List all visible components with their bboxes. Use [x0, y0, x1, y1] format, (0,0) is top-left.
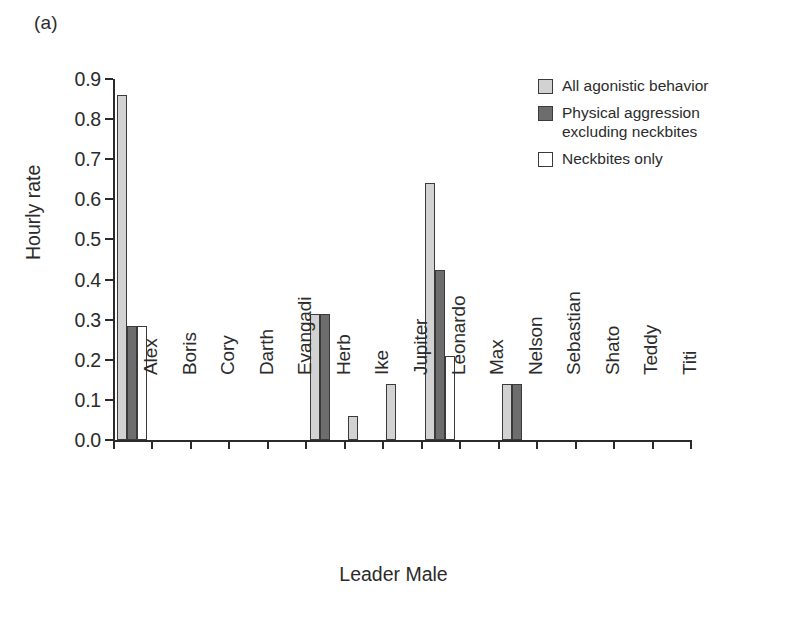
figure-panel-a: (a) Hourly rate 0.00.10.20.30.40.50.60.7…: [0, 0, 787, 623]
x-axis-tick: [344, 440, 346, 449]
y-axis-tick-label: 0.2: [74, 348, 101, 371]
bar: [435, 270, 445, 440]
bar-group: [113, 79, 151, 440]
bar-group: [190, 79, 228, 440]
legend-item: Neckbites only: [538, 149, 783, 168]
x-axis-tick: [421, 440, 423, 449]
x-axis-tick: [113, 440, 115, 449]
legend-swatch-icon: [538, 106, 553, 121]
x-axis-tick: [267, 440, 269, 449]
y-axis-tick: [105, 78, 113, 80]
y-axis-title: Hourly rate: [22, 165, 45, 260]
legend-item: Physical aggression excluding neckbites: [538, 103, 783, 141]
x-axis-tick: [151, 440, 153, 449]
x-axis-tick: [459, 440, 461, 449]
y-axis-tick: [105, 439, 113, 441]
x-axis-tick: [690, 440, 692, 449]
legend-label: Neckbites only: [562, 149, 663, 168]
x-category-label: Teddy: [640, 325, 662, 375]
panel-label: (a): [34, 12, 58, 34]
x-category-label: Cory: [217, 335, 239, 375]
bar: [117, 95, 127, 440]
x-axis-tick: [536, 440, 538, 449]
bar: [386, 384, 396, 440]
legend-item: All agonistic behavior: [538, 76, 783, 95]
bar-group: [267, 79, 305, 440]
x-category-label: Ike: [371, 350, 393, 375]
x-category-label: Leonardo: [448, 296, 470, 376]
x-category-label: Max: [486, 339, 508, 375]
x-axis-tick: [190, 440, 192, 449]
y-axis-tick-label: 0.1: [74, 388, 101, 411]
legend-label: All agonistic behavior: [562, 76, 708, 95]
x-axis-tick: [498, 440, 500, 449]
x-category-label: Darth: [256, 329, 278, 375]
y-axis-tick: [105, 158, 113, 160]
x-category-label: Alex: [140, 338, 162, 375]
y-axis-tick-label: 0.9: [74, 68, 101, 91]
y-axis-tick: [105, 238, 113, 240]
x-category-label: Boris: [179, 332, 201, 375]
y-axis-tick-label: 0.3: [74, 308, 101, 331]
y-axis-tick: [105, 118, 113, 120]
legend-label: Physical aggression excluding neckbites: [562, 103, 700, 141]
legend: All agonistic behaviorPhysical aggressio…: [538, 76, 783, 176]
y-axis-tick-label: 0.6: [74, 188, 101, 211]
y-axis-tick: [105, 198, 113, 200]
bar: [348, 416, 358, 440]
y-axis-tick: [105, 359, 113, 361]
x-category-label: Evangadi: [294, 297, 316, 375]
bar-group: [459, 79, 497, 440]
bar-group: [228, 79, 266, 440]
x-axis-line: [113, 440, 690, 442]
x-axis-tick: [382, 440, 384, 449]
x-axis-title: Leader Male: [0, 563, 787, 586]
x-axis-tick: [228, 440, 230, 449]
bar-group: [151, 79, 189, 440]
bar-group: [305, 79, 343, 440]
bar: [320, 314, 330, 440]
y-axis-tick: [105, 279, 113, 281]
legend-swatch-icon: [538, 79, 553, 94]
x-axis-tick: [613, 440, 615, 449]
bar: [425, 183, 435, 440]
x-category-label: Jupiter: [410, 319, 432, 375]
x-axis-tick: [305, 440, 307, 449]
x-category-label: Sebastian: [563, 291, 585, 375]
y-axis-tick-label: 0.8: [74, 108, 101, 131]
bar: [502, 384, 512, 440]
y-axis-tick-label: 0.0: [74, 429, 101, 452]
y-axis-tick-label: 0.4: [74, 268, 101, 291]
bar-group: [421, 79, 459, 440]
bar-group: [498, 79, 536, 440]
x-category-label: Nelson: [525, 316, 547, 375]
x-category-label: Herb: [333, 334, 355, 375]
bar: [127, 326, 137, 440]
bar-group: [344, 79, 382, 440]
y-axis-tick-label: 0.7: [74, 148, 101, 171]
bar-group: [382, 79, 420, 440]
x-axis-tick: [575, 440, 577, 449]
x-category-label: Shato: [602, 326, 624, 375]
y-axis-tick: [105, 399, 113, 401]
x-category-label: Titi: [679, 351, 701, 375]
legend-swatch-icon: [538, 152, 553, 167]
y-axis-tick-label: 0.5: [74, 228, 101, 251]
x-axis-tick: [652, 440, 654, 449]
y-axis-tick: [105, 319, 113, 321]
bar: [512, 384, 522, 440]
